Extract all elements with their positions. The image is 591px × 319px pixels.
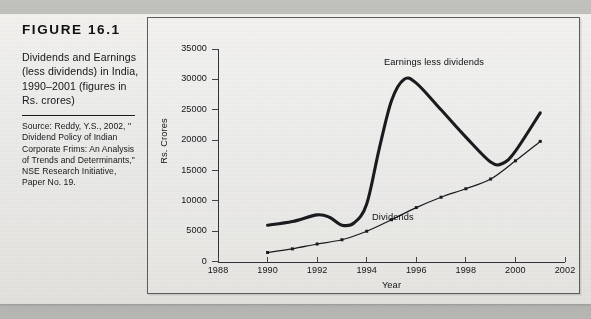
chart-frame: 05000100001500020000250003000035000 1988… (147, 17, 580, 294)
data-point-dividends-1999 (489, 178, 492, 181)
series-line-earnings-less-dividends (268, 78, 541, 226)
annotation-dividends: Dividends (372, 212, 414, 222)
figure-source-note: Source: Reddy, Y.S., 2002, " Dividend Po… (22, 121, 140, 188)
data-point-dividends-2001 (539, 140, 542, 143)
page-background: FIGURE 16.1 Dividends and Earnings (less… (0, 0, 591, 319)
data-point-dividends-1990 (266, 251, 269, 254)
data-point-dividends-2000 (514, 159, 517, 162)
figure-title: Dividends and Earnings (less dividends) … (22, 50, 140, 108)
data-point-dividends-1998 (464, 187, 467, 190)
series-line-dividends (268, 141, 541, 252)
data-point-dividends-1997 (440, 196, 443, 199)
data-point-dividends-1994 (365, 230, 368, 233)
chart-series-layer (148, 18, 579, 293)
figure-sheet: FIGURE 16.1 Dividends and Earnings (less… (0, 14, 591, 304)
data-point-dividends-1992 (316, 242, 319, 245)
figure-number-label: FIGURE 16.1 (22, 22, 140, 37)
series-markers-dividends (266, 140, 542, 254)
data-point-dividends-1991 (291, 247, 294, 250)
data-point-dividends-1996 (415, 206, 418, 209)
data-point-dividends-1993 (340, 238, 343, 241)
annotation-earnings-less-dividends: Earnings less dividends (384, 57, 484, 67)
caption-divider (22, 115, 135, 117)
figure-caption: FIGURE 16.1 Dividends and Earnings (less… (22, 22, 140, 188)
chart-plot-area: 05000100001500020000250003000035000 1988… (148, 18, 579, 293)
